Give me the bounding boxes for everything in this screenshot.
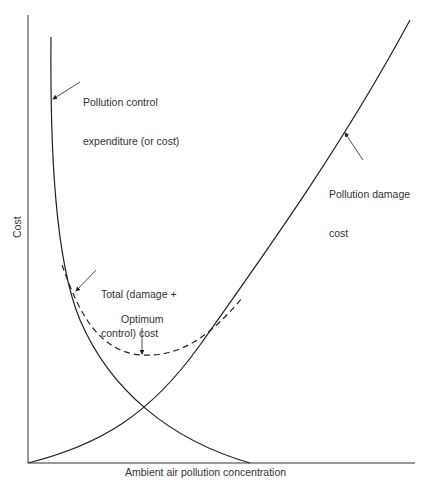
damage-pointer: [345, 133, 363, 160]
x-axis-label: Ambient air pollution concentration: [125, 466, 286, 479]
control-pointer: [53, 82, 80, 99]
control-annotation: Pollution control expenditure (or cost): [83, 70, 179, 161]
total-pointer: [76, 270, 96, 291]
optimum-annotation: Optimum: [121, 313, 164, 326]
damage-annotation: Pollution damage cost: [329, 162, 410, 253]
total-annotation: Total (damage + control) cost: [101, 262, 177, 353]
y-axis-label: Cost: [11, 216, 23, 238]
